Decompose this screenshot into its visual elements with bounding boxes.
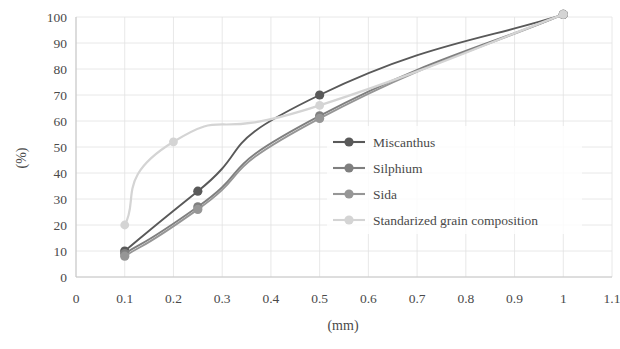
data-point-marker	[193, 187, 202, 196]
data-point-marker	[193, 205, 202, 214]
y-tick-label: 30	[54, 192, 68, 207]
legend-item-label: Standarized grain composition	[373, 213, 538, 228]
legend-item-label: Miscanthus	[373, 135, 435, 150]
x-tick-label: 0.5	[311, 291, 328, 306]
legend-swatch-marker	[344, 215, 353, 224]
x-tick-label: 1	[560, 291, 567, 306]
x-axis-title: (mm)	[327, 318, 358, 334]
y-tick-label: 20	[54, 218, 68, 233]
data-point-marker	[315, 114, 324, 123]
y-tick-label: 60	[54, 114, 68, 129]
data-point-marker	[315, 90, 324, 99]
y-tick-label: 40	[54, 166, 68, 181]
particle-size-distribution-chart: 0102030405060708090100 00.10.20.30.40.50…	[0, 0, 620, 349]
y-tick-label: 100	[47, 10, 68, 25]
data-point-marker	[169, 137, 178, 146]
data-point-marker	[315, 101, 324, 110]
x-tick-label: 0	[73, 291, 80, 306]
legend-swatch-marker	[344, 189, 353, 198]
y-axis-title: (%)	[14, 147, 30, 168]
data-point-marker	[120, 252, 129, 261]
legend-swatch-marker	[344, 137, 353, 146]
y-tick-label: 0	[60, 270, 67, 285]
x-tick-label: 0.8	[457, 291, 474, 306]
x-tick-label: 0.2	[165, 291, 182, 306]
x-tick-label: 0.7	[409, 291, 426, 306]
y-tick-label: 10	[54, 244, 68, 259]
x-tick-label: 1.1	[604, 291, 620, 306]
legend-swatch-marker	[344, 163, 353, 172]
x-tick-label: 0.6	[360, 291, 377, 306]
x-tick-label: 0.1	[116, 291, 133, 306]
y-tick-label: 80	[54, 62, 68, 77]
x-tick-label: 0.3	[214, 291, 231, 306]
legend-item-label: Sida	[373, 187, 397, 202]
chart-container: 0102030405060708090100 00.10.20.30.40.50…	[0, 0, 620, 349]
x-tick-label: 0.4	[262, 291, 279, 306]
legend-item-label: Silphium	[373, 161, 423, 176]
data-point-marker	[559, 10, 568, 19]
y-tick-label: 90	[54, 36, 68, 51]
legend: MiscanthusSilphiumSidaStandarized grain …	[327, 126, 582, 234]
x-tick-labels: 00.10.20.30.40.50.60.70.80.911.1	[73, 291, 620, 306]
y-tick-label: 70	[54, 88, 68, 103]
x-tick-label: 0.9	[506, 291, 523, 306]
y-tick-labels: 0102030405060708090100	[47, 10, 68, 285]
y-tick-label: 50	[54, 140, 68, 155]
data-point-marker	[120, 221, 129, 230]
